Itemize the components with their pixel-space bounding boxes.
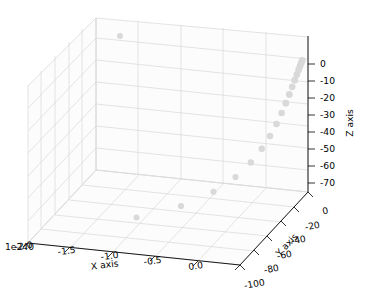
z-tick-label: 0 xyxy=(320,58,326,69)
x-tick-label: -0.5 xyxy=(143,254,162,267)
data-point xyxy=(278,110,285,117)
data-point xyxy=(232,174,238,180)
z-tick-label: -20 xyxy=(320,92,335,103)
y-tick-label: -80 xyxy=(263,262,280,276)
matplotlib-3d-figure: -2.0 -1.5 -1.0 -0.5 0.0 0 -20 -40 -60 -8… xyxy=(0,0,366,299)
x-axis-offset-text: 1e240 xyxy=(5,241,34,252)
y-tick-label: 0 xyxy=(321,205,329,217)
z-tick-label: -50 xyxy=(320,143,335,154)
data-point xyxy=(117,33,123,39)
data-point xyxy=(178,203,184,209)
data-point xyxy=(282,100,289,107)
z-axis-label: Z axis xyxy=(344,109,355,137)
z-tick-label: -10 xyxy=(320,75,335,86)
plot-canvas: -2.0 -1.5 -1.0 -0.5 0.0 0 -20 -40 -60 -8… xyxy=(0,0,366,299)
data-point xyxy=(210,189,216,195)
data-point xyxy=(248,159,254,165)
right-wall-pane xyxy=(96,18,308,192)
data-point xyxy=(273,121,280,128)
z-tick-label: -40 xyxy=(320,126,335,137)
data-point xyxy=(289,83,296,90)
y-tick-label: -20 xyxy=(304,219,321,233)
z-tick-marks xyxy=(308,64,315,183)
data-point xyxy=(134,215,140,221)
z-tick-label: -60 xyxy=(320,160,335,171)
x-tick-label: -1.5 xyxy=(57,244,76,257)
data-point xyxy=(267,133,273,139)
z-tick-label: -70 xyxy=(320,177,335,188)
z-tick-labels: 0 -10 -20 -30 -40 -50 -60 -70 xyxy=(320,58,335,188)
data-point xyxy=(259,146,265,152)
data-point xyxy=(286,91,293,98)
z-tick-label: -30 xyxy=(320,109,335,120)
data-point xyxy=(291,77,298,84)
x-tick-label: 0.0 xyxy=(188,259,204,272)
x-axis-label: X axis xyxy=(90,257,119,271)
y-tick-label: -100 xyxy=(243,276,266,291)
